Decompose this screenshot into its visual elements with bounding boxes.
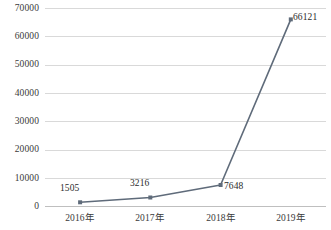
ytick-label-40000: 40000 (0, 88, 39, 98)
data-label-2019: 66121 (293, 12, 317, 22)
ytick-label-60000: 60000 (0, 31, 39, 41)
chart-canvas (0, 0, 331, 230)
series-markers (78, 17, 293, 204)
ytick-label-10000: 10000 (0, 173, 39, 183)
ytick-label-20000: 20000 (0, 144, 39, 154)
xtick-label-2018: 2018年 (186, 210, 256, 224)
ytick-label-70000: 70000 (0, 3, 39, 13)
marker-2016 (78, 200, 82, 204)
xtick-label-2019: 2019年 (256, 210, 326, 224)
xtick-label-2016: 2016年 (45, 210, 115, 224)
ytick-label-50000: 50000 (0, 59, 39, 69)
data-label-2018: 7648 (224, 181, 243, 191)
line-chart: 70000 60000 50000 40000 30000 20000 1000… (0, 0, 331, 230)
marker-2018 (219, 183, 223, 187)
series-line (80, 19, 291, 202)
marker-2017 (148, 196, 152, 200)
data-label-2016: 1505 (60, 183, 79, 193)
data-label-2017: 3216 (130, 178, 149, 188)
ytick-label-30000: 30000 (0, 116, 39, 126)
ytick-label-0: 0 (0, 201, 39, 211)
xtick-label-2017: 2017年 (115, 210, 185, 224)
